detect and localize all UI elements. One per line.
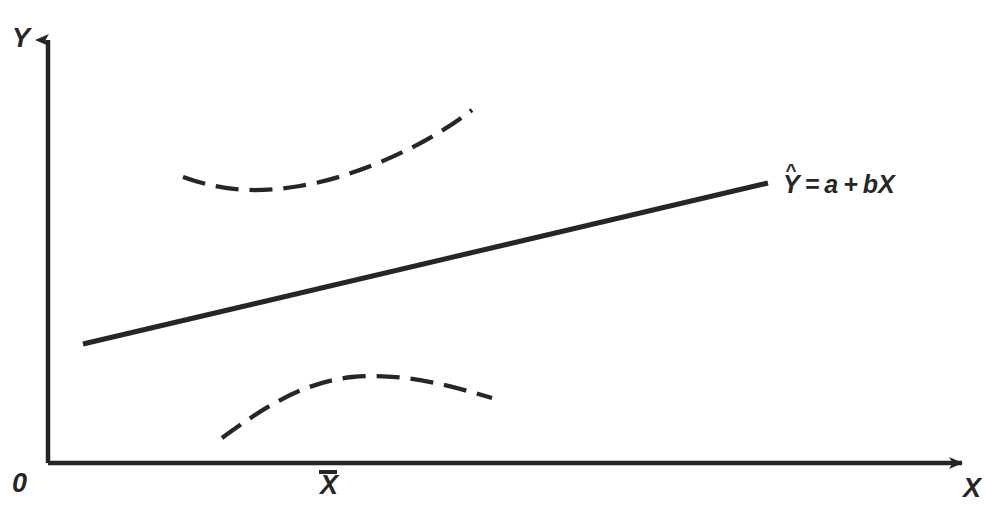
regression-line [83,183,768,344]
equals-sign: = [800,170,825,198]
mean-of-x-label: X [320,470,338,499]
lower-confidence-band-curve [222,376,492,438]
intercept-term: a [824,170,838,198]
regression-equation-label: ^Y=a+bX [783,172,895,197]
origin-label: 0 [12,470,27,497]
circumflex-icon: ^ [786,161,797,180]
plus-sign: + [838,170,863,198]
upper-confidence-band-curve [183,110,472,190]
y-axis-label: Y [12,25,30,52]
regression-diagram: Y 0 X X ^Y=a+bX [0,0,996,517]
mean-of-x-glyph: X [320,470,338,499]
y-hat-glyph: ^Y [783,172,800,197]
x-axis-label: X [963,475,981,502]
slope-term: bX [863,170,895,198]
plot-area [0,0,996,517]
